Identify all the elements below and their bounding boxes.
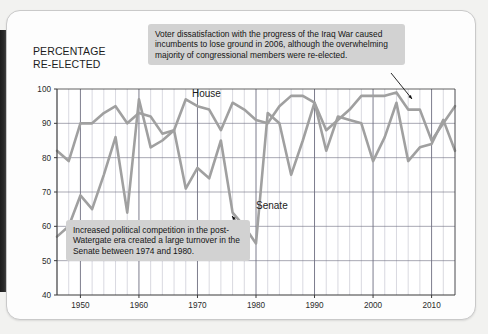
series-label-senate: Senate <box>256 200 288 211</box>
annotation-iraq-war-2006: Voter dissatisfaction with the progress … <box>148 24 405 65</box>
y-tick-label: 60 <box>42 222 52 231</box>
y-tick-label: 50 <box>42 257 52 266</box>
x-tick-label: 1990 <box>305 301 324 310</box>
y-tick-label: 100 <box>37 85 51 94</box>
x-tick-label: 2000 <box>364 301 383 310</box>
y-tick-label: 70 <box>42 188 52 197</box>
x-tick-label: 1980 <box>247 301 266 310</box>
chart-page: PERCENTAGE RE-ELECTED 405060708090100195… <box>0 0 488 334</box>
annotation-post-watergate: Increased political competition in the p… <box>66 220 250 261</box>
series-label-house: House <box>192 88 221 99</box>
x-tick-label: 1970 <box>188 301 207 310</box>
x-tick-label: 1960 <box>130 301 149 310</box>
x-tick-label: 1950 <box>71 301 90 310</box>
y-tick-label: 90 <box>42 119 52 128</box>
y-tick-label: 80 <box>42 154 52 163</box>
x-tick-label: 2010 <box>422 301 441 310</box>
y-tick-label: 40 <box>42 291 52 300</box>
chart-area: PERCENTAGE RE-ELECTED 405060708090100195… <box>0 0 488 334</box>
